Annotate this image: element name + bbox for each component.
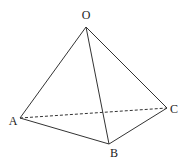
edge-AC-hidden — [20, 108, 167, 118]
edge-OC — [86, 27, 167, 108]
vertex-label-O: O — [82, 8, 91, 22]
vertex-label-A: A — [9, 114, 18, 128]
vertex-label-B: B — [110, 146, 118, 160]
vertex-label-C: C — [170, 102, 178, 116]
edge-OA — [20, 27, 86, 118]
edge-AB — [20, 118, 109, 144]
edge-BC — [109, 108, 167, 144]
tetrahedron-diagram: O A B C — [0, 0, 185, 163]
edge-OB — [86, 27, 109, 144]
